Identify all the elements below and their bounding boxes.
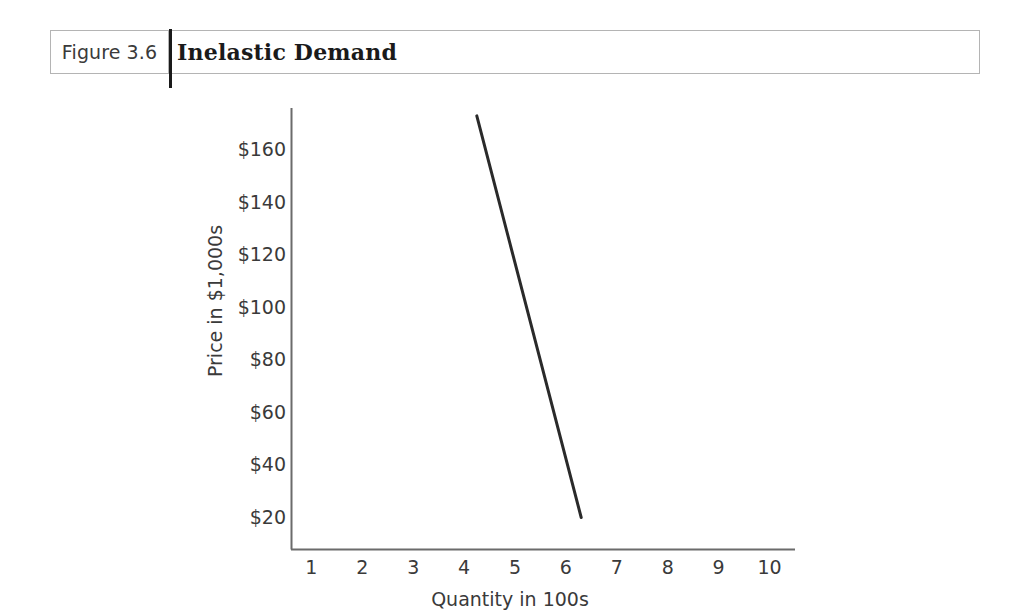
x-axis-tick-label: 4 — [444, 558, 484, 577]
y-axis-title: Price in $1,000s — [204, 216, 226, 386]
y-axis-tick-label: $20 — [228, 508, 286, 527]
x-axis-tick-label: 6 — [546, 558, 586, 577]
y-axis-tick-label: $160 — [228, 140, 286, 159]
x-axis-title: Quantity in 100s — [380, 588, 640, 610]
x-axis-tick-label: 1 — [291, 558, 331, 577]
y-axis-tick-label: $120 — [228, 245, 286, 264]
y-axis-tick-label: $100 — [228, 298, 286, 317]
y-axis-tick-label: $40 — [228, 455, 286, 474]
x-axis-tick-label: 7 — [597, 558, 637, 577]
x-axis-tick-label: 8 — [648, 558, 688, 577]
chart-canvas — [0, 0, 1034, 616]
demand-curve-line — [477, 116, 581, 518]
x-axis-tick-label: 2 — [342, 558, 382, 577]
y-axis-tick-label: $80 — [228, 350, 286, 369]
x-axis-tick-label: 10 — [750, 558, 790, 577]
y-axis-tick-label: $140 — [228, 193, 286, 212]
x-axis-tick-label: 3 — [393, 558, 433, 577]
chart-plot-area: $160$140$120$100$80$60$40$20 12345678910… — [0, 0, 1034, 616]
y-axis-tick-label: $60 — [228, 403, 286, 422]
x-axis-tick-label: 5 — [495, 558, 535, 577]
x-axis-tick-label: 9 — [699, 558, 739, 577]
